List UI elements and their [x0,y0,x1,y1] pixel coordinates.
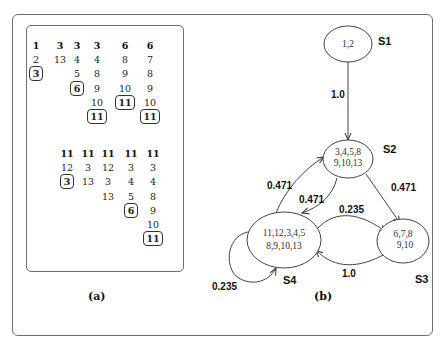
edge-label-s3-s4: 1.0 [342,268,356,279]
svg-text:9,10,13: 9,10,13 [334,158,363,168]
edge-label-s2-s4: 0.471 [299,194,324,205]
svg-text:8,9,10,13: 8,9,10,13 [266,241,302,251]
state-label-s1: S1 [378,35,391,47]
svg-text:3,4,5,8: 3,4,5,8 [335,147,361,157]
edge-label-s4-self: 0.235 [212,281,237,292]
state-label-s3: S3 [415,273,428,285]
state-transition-graph: 1,2 3,4,5,8 9,10,13 11,12,3,4,5 8,9,10,1… [0,0,447,352]
svg-text:11,12,3,4,5: 11,12,3,4,5 [263,228,306,238]
caption-b: (b) [314,290,332,303]
edge-s3-s4 [316,250,385,265]
state-s4: 11,12,3,4,5 8,9,10,13 [247,212,321,268]
edge-label-s4-s3: 0.235 [339,204,364,215]
svg-text:1,2: 1,2 [342,39,354,49]
svg-text:6,7,8: 6,7,8 [394,229,413,239]
state-s2: 3,4,5,8 9,10,13 [323,140,373,178]
state-s3: 6,7,8 9,10 [377,219,429,263]
state-s1: 1,2 [324,26,372,62]
state-label-s4: S4 [283,274,297,286]
state-label-s2: S2 [383,143,396,155]
edge-label-s2-s3: 0.471 [391,182,416,193]
edge-s4-s3 [318,216,386,232]
edge-label-s1-s2: 1.0 [331,89,345,100]
edge-label-s4-s2: 0.471 [267,180,292,191]
svg-text:9,10: 9,10 [397,240,414,250]
